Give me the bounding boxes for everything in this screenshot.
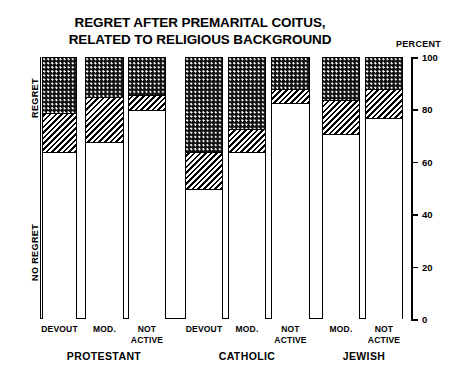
segment-no-regret-jewish-not-active (366, 118, 402, 320)
bar-label-protestant-not-active: NOTACTIVE (116, 324, 178, 345)
segment-no-regret-protestant-not-active (129, 110, 165, 320)
group-label-protestant: PROTESTANT (34, 350, 174, 362)
y-tick-0 (411, 319, 418, 321)
bar-protestant-not-active[interactable] (128, 57, 166, 319)
bar-protestant-devout[interactable] (42, 57, 77, 319)
group-label-catholic: CATHOLIC (177, 350, 317, 362)
y-tick-label-40: 40 (422, 209, 433, 220)
segment-some-regret-jewish-mod (323, 100, 359, 134)
bar-catholic-devout[interactable] (185, 57, 223, 319)
segment-no-regret-protestant-mod (86, 142, 123, 320)
segment-regret-protestant-devout (43, 58, 76, 113)
chart-title-line-2: RELATED TO RELIGIOUS BACKGROUND (0, 31, 400, 48)
bar-label-line-2: ACTIVE (116, 335, 178, 346)
segment-no-regret-catholic-mod (229, 152, 265, 320)
y-tick-60 (411, 162, 418, 164)
y-tick-label-100: 100 (422, 52, 438, 63)
bar-label-line-1: NOT (353, 324, 415, 335)
side-label-regret: REGRET (30, 78, 40, 118)
bar-catholic-mod[interactable] (228, 57, 266, 319)
y-tick-label-20: 20 (422, 261, 433, 272)
segment-some-regret-catholic-mod (229, 129, 265, 153)
segment-some-regret-protestant-not-active (129, 95, 165, 111)
segment-regret-catholic-not-active (272, 58, 309, 89)
bar-protestant-mod[interactable] (85, 57, 124, 319)
group-label-jewish: JEWISH (314, 350, 414, 362)
bar-label-line-1: NOT (116, 324, 178, 335)
segment-regret-protestant-not-active (129, 58, 165, 95)
chart-figure: REGRET AFTER PREMARITAL COITUS, RELATED … (0, 0, 461, 386)
bar-label-line-2: ACTIVE (259, 335, 322, 346)
segment-regret-catholic-devout (186, 58, 222, 152)
bar-label-jewish-not-active: NOTACTIVE (353, 324, 415, 345)
segment-some-regret-catholic-not-active (272, 89, 309, 102)
segment-no-regret-catholic-not-active (272, 103, 309, 320)
y-tick-20 (411, 267, 418, 269)
segment-some-regret-protestant-devout (43, 113, 76, 152)
segment-regret-catholic-mod (229, 58, 265, 129)
segment-some-regret-protestant-mod (86, 97, 123, 142)
bar-label-line-2: ACTIVE (353, 335, 415, 346)
y-tick-80 (411, 109, 418, 111)
y-tick-label-60: 60 (422, 156, 433, 167)
y-tick-40 (411, 214, 418, 216)
segment-some-regret-jewish-not-active (366, 89, 402, 118)
segment-no-regret-catholic-devout (186, 189, 222, 320)
segment-regret-jewish-not-active (366, 58, 402, 89)
bar-catholic-not-active[interactable] (271, 57, 310, 319)
segment-no-regret-protestant-devout (43, 152, 76, 320)
segment-regret-jewish-mod (323, 58, 359, 100)
segment-some-regret-catholic-devout (186, 152, 222, 189)
bar-jewish-not-active[interactable] (365, 57, 403, 319)
y-tick-label-0: 0 (422, 314, 427, 325)
side-label-no-regret: NO REGRET (30, 224, 40, 281)
segment-no-regret-jewish-mod (323, 134, 359, 320)
chart-title-line-1: REGRET AFTER PREMARITAL COITUS, (0, 14, 400, 31)
chart-title: REGRET AFTER PREMARITAL COITUS, RELATED … (0, 14, 400, 48)
y-tick-label-80: 80 (422, 104, 433, 115)
segment-regret-protestant-mod (86, 58, 123, 97)
y-tick-100 (411, 57, 418, 59)
y-axis-unit-label: PERCENT (396, 39, 441, 49)
y-axis-line (411, 57, 413, 319)
bar-jewish-mod[interactable] (322, 57, 360, 319)
